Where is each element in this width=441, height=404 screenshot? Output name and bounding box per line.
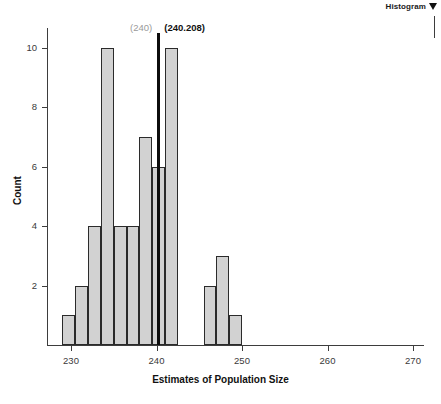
x-axis-line (47, 345, 424, 346)
histogram-bar[interactable] (101, 48, 114, 345)
histogram-bar[interactable] (127, 226, 140, 345)
annotation-observed-value: (240) (130, 22, 152, 33)
x-axis-title: Estimates of Population Size (0, 374, 441, 385)
y-axis-title: Count (12, 176, 23, 205)
x-axis-tick-label: 250 (222, 355, 262, 366)
y-axis-tick (42, 48, 47, 49)
x-axis-tick-label: 230 (51, 355, 91, 366)
histogram-bar[interactable] (204, 286, 217, 345)
x-axis-tick (71, 346, 72, 351)
histogram-app: Histogram 246810230240250260270(240)(240… (0, 0, 441, 404)
x-axis-tick-label: 270 (393, 355, 433, 366)
reference-line[interactable] (157, 33, 160, 345)
histogram-bar[interactable] (229, 315, 242, 345)
x-axis-tick (413, 346, 414, 351)
histogram-bar[interactable] (88, 226, 101, 345)
annotation-reference-value: (240.208) (164, 22, 205, 33)
y-axis-tick (42, 107, 47, 108)
histogram-bar[interactable] (114, 226, 127, 345)
x-axis-tick (157, 346, 158, 351)
histogram-bar[interactable] (75, 286, 88, 345)
y-axis-tick-label: 2 (9, 280, 37, 291)
histogram-bar[interactable] (165, 48, 178, 345)
histogram-bar[interactable] (216, 256, 229, 345)
histogram-bar[interactable] (139, 137, 152, 345)
plot-area: 246810230240250260270(240)(240.208) (0, 0, 441, 404)
y-axis-line (47, 28, 48, 346)
y-axis-tick-label: 8 (9, 101, 37, 112)
histogram-bar[interactable] (62, 315, 75, 345)
y-axis-tick-label: 4 (9, 220, 37, 231)
y-axis-tick-label: 10 (9, 42, 37, 53)
x-axis-tick (242, 346, 243, 351)
y-axis-tick (42, 167, 47, 168)
x-axis-tick-label: 260 (308, 355, 348, 366)
y-axis-tick (42, 226, 47, 227)
y-axis-tick-label: 6 (9, 161, 37, 172)
x-axis-tick-label: 240 (137, 355, 177, 366)
y-axis-tick (42, 286, 47, 287)
x-axis-tick (328, 346, 329, 351)
